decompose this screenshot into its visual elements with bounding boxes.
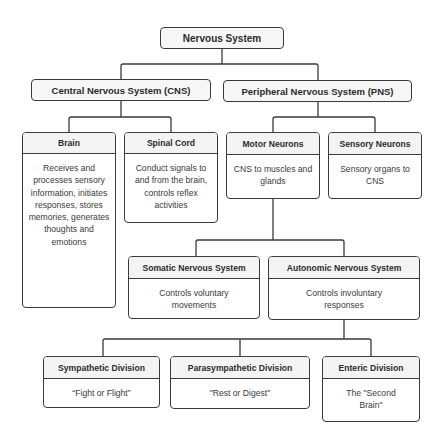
- node-brain: Brain Receives and processes sensory inf…: [22, 132, 116, 308]
- node-title: Somatic Nervous System: [129, 257, 259, 279]
- node-sensory-neurons: Sensory Neurons Sensory organs to CNS: [328, 132, 422, 199]
- node-title: Parasympathetic Division: [171, 357, 309, 379]
- node-spinal-cord: Spinal Cord Conduct signals to and from …: [124, 132, 218, 223]
- node-description: The "Second Brain": [323, 379, 419, 416]
- node-title: Motor Neurons: [227, 133, 319, 155]
- node-description: "Rest or Digest": [171, 379, 309, 403]
- node-title: Spinal Cord: [125, 133, 217, 154]
- node-autonomic: Autonomic Nervous System Controls involu…: [268, 256, 420, 320]
- node-somatic: Somatic Nervous System Controls voluntar…: [128, 256, 260, 319]
- node-description: CNS to muscles and glands: [227, 155, 319, 192]
- node-description: Receives and processes sensory informati…: [23, 154, 115, 252]
- node-description: Sensory organs to CNS: [329, 155, 421, 192]
- node-sympathetic: Sympathetic Division “Fight or Flight”: [43, 356, 160, 408]
- node-pns: Peripheral Nervous System (PNS): [223, 80, 412, 102]
- node-parasympathetic: Parasympathetic Division "Rest or Digest…: [170, 356, 310, 409]
- node-description: Controls involuntary responses: [269, 279, 419, 316]
- node-title: Brain: [23, 133, 115, 154]
- node-title: Autonomic Nervous System: [269, 257, 419, 279]
- node-cns: Central Nervous System (CNS): [31, 79, 211, 101]
- node-description: Conduct signals to and from the brain, c…: [125, 154, 217, 215]
- node-title: Nervous System: [183, 33, 261, 44]
- node-description: Controls voluntary movements: [129, 279, 259, 316]
- node-title: Enteric Division: [323, 357, 419, 379]
- node-description: “Fight or Flight”: [44, 379, 159, 403]
- node-nervous-system: Nervous System: [160, 27, 284, 49]
- node-title: Central Nervous System (CNS): [52, 85, 191, 96]
- node-enteric: Enteric Division The "Second Brain": [322, 356, 420, 422]
- node-title: Sensory Neurons: [329, 133, 421, 155]
- node-title: Peripheral Nervous System (PNS): [241, 86, 393, 97]
- node-title: Sympathetic Division: [44, 357, 159, 379]
- node-motor-neurons: Motor Neurons CNS to muscles and glands: [226, 132, 320, 199]
